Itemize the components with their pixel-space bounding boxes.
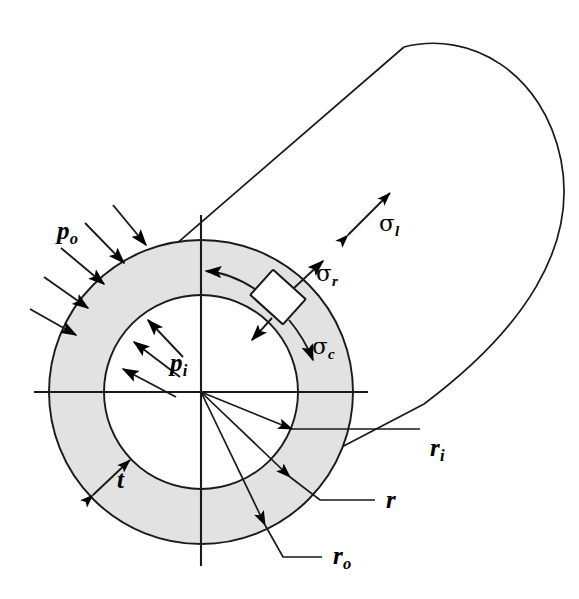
sigma-c-inward-arrow bbox=[252, 318, 272, 340]
leader-r-outer bbox=[265, 525, 322, 557]
po-arrow-5 bbox=[113, 205, 146, 245]
pressure-vessel-figure: po pi σr σc σl t ri r ro bbox=[0, 0, 579, 599]
r-inner-dimension-line bbox=[201, 392, 292, 429]
po-arrow-3 bbox=[44, 277, 88, 308]
label-sigma-longitudinal: σl bbox=[379, 212, 399, 235]
label-radius-generic: r bbox=[386, 487, 396, 512]
label-radius-inner: ri bbox=[430, 435, 444, 460]
label-sigma-radial: σr bbox=[316, 262, 338, 285]
diagram-canvas bbox=[0, 0, 579, 599]
label-p-inner: pi bbox=[170, 350, 187, 375]
po-arrow-1 bbox=[85, 223, 124, 263]
r-mid-dimension-line bbox=[201, 392, 290, 477]
label-sigma-circumferential: σc bbox=[312, 335, 334, 358]
po-arrow-2 bbox=[61, 248, 104, 284]
cylinder-end-cap bbox=[336, 43, 564, 450]
label-p-outer: po bbox=[57, 218, 78, 243]
label-thickness: t bbox=[117, 467, 124, 492]
label-radius-outer: ro bbox=[333, 543, 351, 568]
